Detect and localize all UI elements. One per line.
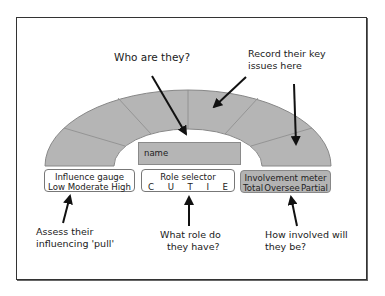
influence-gauge[interactable]: Influence gauge Low Moderate High: [44, 169, 135, 192]
callout-key-issues-line1: Record their key: [248, 48, 326, 59]
role-selector-title: Role selector: [142, 172, 234, 182]
callout-key-issues-line2: issues here: [248, 60, 302, 71]
callout-involvement-line1: How involved will: [265, 229, 348, 240]
influence-option-high[interactable]: High: [111, 182, 131, 192]
role-option-t[interactable]: T: [188, 182, 193, 192]
callout-who-are-they: Who are they?: [114, 52, 190, 63]
influence-option-low[interactable]: Low: [48, 182, 65, 192]
callout-influence-line1: Assess their: [36, 226, 93, 237]
callout-role-line1: What role do: [160, 229, 221, 240]
callout-involvement-line2: they be?: [265, 241, 306, 252]
role-option-e[interactable]: E: [223, 182, 228, 192]
role-option-i[interactable]: I: [206, 182, 209, 192]
involvement-option-oversee[interactable]: Oversee: [264, 183, 300, 193]
callout-influence-line2: influencing 'pull': [36, 238, 114, 249]
involvement-option-total[interactable]: Total: [243, 183, 263, 193]
influence-gauge-title: Influence gauge: [45, 172, 134, 182]
arrow-involvement: [291, 197, 297, 226]
involvement-option-partial[interactable]: Partial: [301, 183, 328, 193]
name-field[interactable]: name: [138, 142, 241, 165]
involvement-meter-title: Involvement meter: [241, 173, 330, 183]
callout-role-line2: they have?: [167, 241, 220, 252]
involvement-meter[interactable]: Involvement meter Total Oversee Partial: [240, 170, 331, 193]
arrow-influence: [63, 196, 70, 223]
role-option-u[interactable]: U: [168, 182, 174, 192]
role-option-c[interactable]: C: [148, 182, 154, 192]
role-selector[interactable]: Role selector C U T I E: [141, 169, 235, 192]
influence-option-moderate[interactable]: Moderate: [68, 182, 109, 192]
